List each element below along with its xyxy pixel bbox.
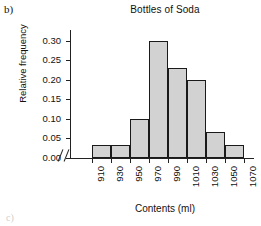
x-tick (168, 159, 169, 163)
y-tick: 0.20 (66, 80, 71, 81)
x-axis-title: Contents (ml) (70, 203, 260, 215)
x-tick-label: 910 (96, 166, 106, 182)
bar (149, 41, 168, 158)
plot-area: 0.000.050.100.150.200.250.30 91093095097… (70, 30, 254, 159)
x-tick-label: 1010 (191, 166, 201, 187)
y-tick: 0.25 (66, 60, 71, 61)
x-tick-label: 1030 (210, 166, 220, 187)
bar (130, 119, 149, 158)
x-tick-label: 990 (172, 166, 182, 182)
y-axis-spine (70, 30, 71, 159)
bar (187, 80, 206, 158)
x-tick (206, 159, 207, 163)
bar (92, 145, 111, 158)
x-tick-label: 970 (153, 166, 163, 182)
panel-letter: b) (4, 3, 13, 15)
bar (225, 145, 244, 158)
x-tick-label: 930 (115, 166, 125, 182)
x-tick (244, 159, 245, 163)
y-axis-title: Relative frequency (17, 0, 28, 134)
figure-panel: b) Bottles of Soda Relative frequency 0.… (0, 0, 261, 226)
y-tick-label: 0.20 (43, 75, 62, 85)
y-tick: 0.15 (66, 99, 71, 100)
next-panel-letter: c) (6, 212, 14, 223)
x-tick-label: 1070 (248, 166, 258, 187)
y-tick-label: 0.15 (43, 94, 62, 104)
x-tick-label: 1050 (229, 166, 239, 187)
x-axis-spine (70, 158, 254, 159)
x-tick (111, 159, 112, 163)
chart-title: Bottles of Soda (70, 4, 260, 16)
x-tick (92, 159, 93, 163)
x-tick (149, 159, 150, 163)
y-tick-label: 0.10 (43, 114, 62, 124)
bar (206, 132, 225, 158)
x-tick (187, 159, 188, 163)
y-tick-label: 0.25 (43, 55, 62, 65)
y-tick-label: 0.05 (43, 133, 62, 143)
x-tick (130, 159, 131, 163)
axis-break-icon (56, 148, 76, 164)
y-tick: 0.05 (66, 138, 71, 139)
y-tick: 0.10 (66, 119, 71, 120)
y-tick: 0.30 (66, 41, 71, 42)
bar (168, 68, 187, 158)
x-tick-label: 950 (134, 166, 144, 182)
bar (111, 145, 130, 158)
y-tick-label: 0.30 (43, 36, 62, 46)
x-tick (225, 159, 226, 163)
